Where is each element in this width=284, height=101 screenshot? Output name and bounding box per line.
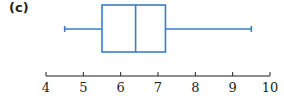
tick-label: 4 bbox=[42, 80, 50, 95]
tick-label: 6 bbox=[117, 80, 125, 95]
box-plot: 45678910 bbox=[0, 0, 284, 101]
tick-label: 10 bbox=[262, 80, 279, 95]
tick-label: 8 bbox=[191, 80, 199, 95]
tick-label: 5 bbox=[79, 80, 87, 95]
tick-label: 7 bbox=[154, 80, 162, 95]
box-plot-body bbox=[65, 5, 252, 52]
tick-label: 9 bbox=[229, 80, 237, 95]
iqr-box bbox=[102, 5, 165, 52]
x-axis: 45678910 bbox=[42, 72, 278, 95]
